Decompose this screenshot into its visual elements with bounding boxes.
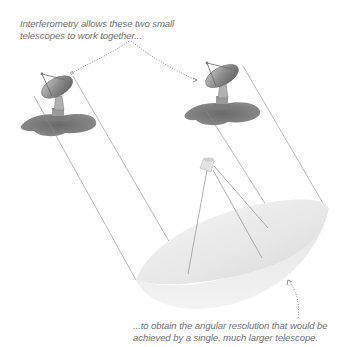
bottom-caption: ...to obtain the angular resolution that… [133, 320, 348, 344]
dotted-arrow-bottom [287, 280, 299, 318]
top-caption: Interferometry allows these two small te… [20, 18, 220, 42]
feed-horn [200, 158, 214, 173]
interferometry-diagram: Interferometry allows these two small te… [0, 0, 348, 347]
large-telescope [136, 158, 329, 310]
bottom-caption-line1: ...to obtain the angular resolution that… [133, 320, 348, 332]
bottom-caption-line2: achieved by a single, much larger telesc… [133, 332, 348, 344]
top-caption-line2: telescopes to work together... [20, 30, 220, 42]
dotted-arrows-top [72, 41, 197, 82]
small-telescope-right [184, 60, 260, 126]
diagram-graphics [0, 0, 348, 347]
large-dish-rim [136, 200, 329, 285]
top-caption-line1: Interferometry allows these two small [20, 18, 220, 30]
small-telescope-left [21, 71, 96, 136]
